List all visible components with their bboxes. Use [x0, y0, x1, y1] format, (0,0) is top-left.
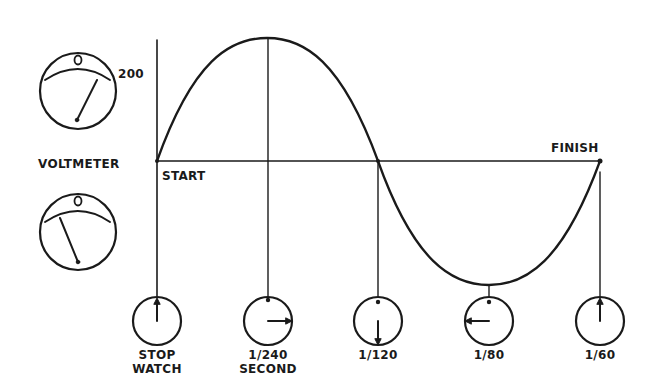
- meter-reading-label: 200: [118, 67, 144, 81]
- stopwatch-label-5: 1/60: [585, 348, 616, 362]
- start-label: START: [162, 169, 206, 183]
- stopwatch-1-240-icon: [244, 297, 292, 345]
- sine-wave-diagram: 200 VOLTMETER START FINISH STOP WATCH 1/…: [0, 0, 654, 386]
- stopwatch-label-2a: 1/240: [248, 348, 287, 362]
- stopwatch-start-icon: [133, 297, 181, 345]
- stopwatch-label-1b: WATCH: [132, 362, 182, 376]
- stopwatch-label-2b: SECOND: [239, 362, 297, 376]
- stopwatch-label-3: 1/120: [358, 348, 397, 362]
- stopwatch-1-80-icon: [465, 297, 513, 345]
- stopwatch-label-4: 1/80: [474, 348, 505, 362]
- voltmeter-label: VOLTMETER: [38, 157, 120, 171]
- voltmeter-top-icon: [40, 53, 116, 129]
- voltmeter-bottom-icon: [40, 194, 116, 270]
- stopwatch-1-120-icon: [354, 297, 402, 345]
- stopwatch-label-1a: STOP: [138, 348, 175, 362]
- stopwatch-1-60-icon: [576, 297, 624, 345]
- finish-label: FINISH: [551, 141, 599, 155]
